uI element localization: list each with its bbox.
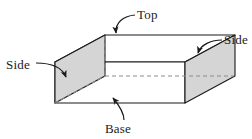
prism-drawing	[0, 0, 252, 139]
label-side-left: Side	[6, 58, 30, 71]
label-base: Base	[105, 122, 131, 135]
leader-arrow-top	[116, 15, 135, 33]
rectangular-prism-figure: Top Side Side Base	[0, 0, 252, 139]
label-side-right: Side	[224, 33, 248, 46]
label-top: Top	[137, 8, 158, 21]
